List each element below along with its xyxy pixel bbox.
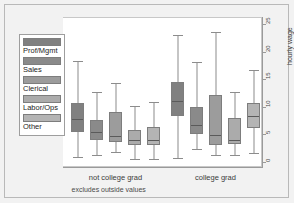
legend-label: Labor/Ops: [23, 103, 61, 113]
median-line: [210, 135, 221, 136]
lower-whisker-cap: [230, 155, 240, 156]
legend-item[interactable]: Labor/Ops: [23, 95, 61, 113]
boxplot: [209, 18, 222, 168]
box-iqr: [128, 130, 141, 145]
upper-whisker-cap: [111, 83, 121, 84]
upper-whisker-cap: [92, 92, 102, 93]
legend-label: Sales: [23, 65, 61, 75]
y-tick-mark: [262, 134, 266, 135]
boxplot: [109, 18, 122, 168]
legend-swatch: [23, 95, 61, 103]
lower-whisker-cap: [73, 157, 83, 158]
y-tick-label: 10: [265, 100, 271, 107]
upper-whisker: [153, 102, 154, 127]
legend-swatch: [23, 57, 61, 65]
legend-item[interactable]: Sales: [23, 57, 61, 75]
upper-whisker-cap: [230, 92, 240, 93]
x-group-label: college grad: [171, 173, 261, 182]
legend-swatch: [23, 114, 61, 122]
median-line: [248, 116, 259, 117]
lower-whisker: [234, 144, 235, 155]
lower-whisker: [253, 128, 254, 153]
chart-footnote: excludes outside values: [72, 186, 146, 193]
graph-frame: 0510152025 hourly wage not college gradc…: [4, 4, 289, 198]
upper-whisker: [115, 83, 116, 111]
upper-whisker: [196, 62, 197, 107]
y-axis-title: hourly wage: [286, 27, 293, 65]
y-tick-label: 0: [265, 159, 271, 162]
boxplot: [71, 18, 84, 168]
chart-screenshot: 0510152025 hourly wage not college gradc…: [0, 0, 294, 203]
box-iqr: [171, 82, 184, 116]
upper-whisker-cap: [130, 106, 140, 107]
upper-whisker: [77, 61, 78, 103]
box-iqr: [90, 120, 103, 140]
upper-whisker: [134, 106, 135, 130]
lower-whisker-cap: [111, 152, 121, 153]
upper-whisker-cap: [73, 61, 83, 62]
plot-area: [63, 17, 262, 167]
y-tick-mark: [262, 79, 266, 80]
boxplot-layer: [63, 18, 261, 166]
box-iqr: [190, 107, 203, 133]
x-axis-line: [63, 167, 263, 168]
boxplot: [128, 18, 141, 168]
lower-whisker-cap: [92, 155, 102, 156]
lower-whisker-cap: [130, 159, 140, 160]
legend-swatch: [23, 38, 61, 46]
y-tick-label: 15: [265, 73, 271, 80]
lower-whisker: [153, 145, 154, 159]
legend-swatch: [23, 76, 61, 84]
boxplot: [247, 18, 260, 168]
box-iqr: [247, 103, 260, 128]
boxplot: [190, 18, 203, 168]
lower-whisker: [115, 142, 116, 151]
y-axis-line: [262, 17, 263, 167]
y-tick-mark: [262, 162, 266, 163]
lower-whisker-cap: [173, 158, 183, 159]
boxplot: [147, 18, 160, 168]
y-tick-label: 5: [265, 131, 271, 134]
x-group-label: not college grad: [71, 173, 161, 182]
lower-whisker: [77, 132, 78, 157]
lower-whisker: [134, 145, 135, 159]
upper-whisker: [234, 92, 235, 118]
median-line: [91, 132, 102, 133]
legend-label: Prof/Mgmt: [23, 46, 61, 56]
upper-whisker-cap: [173, 35, 183, 36]
median-line: [129, 140, 140, 141]
y-tick-label: 25: [265, 17, 271, 24]
upper-whisker: [215, 32, 216, 95]
legend-item[interactable]: Clerical: [23, 76, 61, 94]
upper-whisker-cap: [211, 32, 221, 33]
box-iqr: [147, 127, 160, 145]
lower-whisker-cap: [211, 155, 221, 156]
median-line: [172, 101, 183, 102]
boxplot: [171, 18, 184, 168]
legend: Prof/MgmtSalesClericalLabor/OpsOther: [19, 34, 65, 136]
legend-label: Clerical: [23, 84, 61, 94]
lower-whisker-cap: [149, 159, 159, 160]
upper-whisker-cap: [192, 62, 202, 63]
lower-whisker: [215, 145, 216, 155]
lower-whisker: [177, 116, 178, 158]
upper-whisker: [96, 92, 97, 120]
upper-whisker-cap: [249, 70, 259, 71]
upper-whisker-cap: [149, 102, 159, 103]
y-tick-label: 20: [265, 45, 271, 52]
legend-item[interactable]: Prof/Mgmt: [23, 38, 61, 56]
legend-item[interactable]: Other: [23, 114, 61, 132]
median-line: [191, 125, 202, 126]
median-line: [229, 140, 240, 141]
median-line: [110, 136, 121, 137]
box-iqr: [228, 118, 241, 144]
legend-label: Other: [23, 122, 61, 132]
boxplot: [228, 18, 241, 168]
median-line: [72, 119, 83, 120]
box-iqr: [209, 95, 222, 145]
upper-whisker: [253, 70, 254, 103]
lower-whisker-cap: [249, 153, 259, 154]
upper-whisker: [177, 35, 178, 81]
lower-whisker: [96, 140, 97, 155]
boxplot: [90, 18, 103, 168]
